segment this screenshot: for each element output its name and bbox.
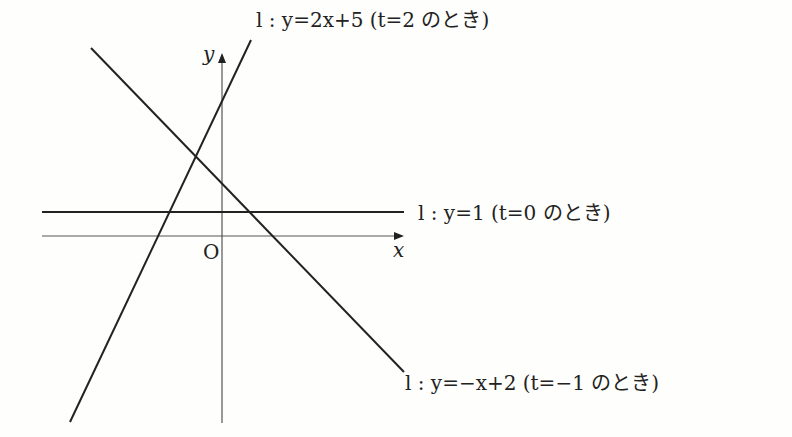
origin-label: O (203, 242, 219, 262)
line-label-t0: l : y=1 (t=0 のとき) (418, 203, 610, 223)
y-axis-label: y (203, 44, 214, 64)
line-label-tm1: l : y=−x+2 (t=−1 のとき) (405, 373, 659, 393)
coordinate-plane (0, 0, 792, 437)
x-axis-label: x (393, 240, 404, 260)
line-label-t2: l : y=2x+5 (t=2 のとき) (256, 10, 489, 30)
line-y-equals-minus-x-plus-2 (91, 48, 404, 372)
line-y-equals-2x-plus-5 (70, 40, 251, 422)
